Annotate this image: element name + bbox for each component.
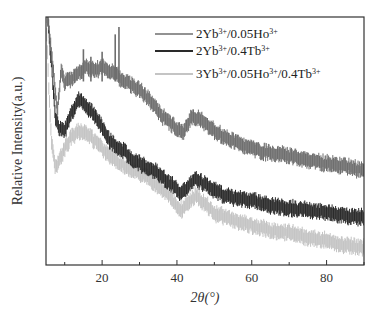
legend-label-series-2: 3Yb3+/0.05Ho3+/0.4Tb3+ — [196, 66, 321, 81]
x-tick-label: 80 — [320, 270, 333, 285]
legend-label-series-1: 2Yb3+/0.4Tb3+ — [196, 43, 270, 58]
y-axis-label: Relative Intensity(a.u.) — [10, 76, 26, 205]
legend-label-series-0: 2Yb3+/0.05Ho3+ — [196, 26, 278, 41]
legend: 2Yb3+/0.05Ho3+ 2Yb3+/0.4Tb3+ 3Yb3+/0.05H… — [155, 26, 321, 81]
legend-item-series-1: 2Yb3+/0.4Tb3+ — [155, 43, 270, 58]
legend-item-series-0: 2Yb3+/0.05Ho3+ — [155, 26, 278, 41]
legend-item-series-2: 3Yb3+/0.05Ho3+/0.4Tb3+ — [155, 66, 321, 81]
x-tick-label: 40 — [170, 270, 183, 285]
x-axis-ticks: 20406080 — [65, 260, 364, 285]
x-tick-label: 60 — [245, 270, 258, 285]
x-axis-label: 2θ(°) — [191, 290, 220, 306]
x-tick-label: 20 — [96, 270, 109, 285]
xrd-chart: 20406080 2Yb3+/0.05Ho3+ 2Yb3+/0.4Tb3+ 3Y… — [0, 0, 376, 320]
